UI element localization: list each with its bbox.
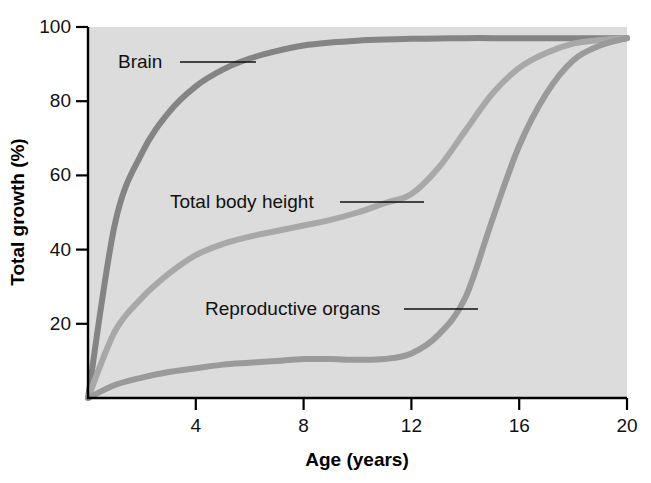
series-label-brain: Brain (118, 51, 162, 72)
x-tick-label-12: 12 (401, 415, 422, 436)
series-label-reproductive-organs: Reproductive organs (205, 298, 380, 319)
y-axis-title: Total growth (%) (7, 138, 28, 285)
x-axis-ticks (196, 398, 627, 410)
x-tick-label-8: 8 (298, 415, 309, 436)
x-tick-label-16: 16 (509, 415, 530, 436)
x-tick-label-20: 20 (616, 415, 637, 436)
y-tick-label-40: 40 (50, 239, 71, 260)
x-axis-title: Age (years) (305, 449, 409, 470)
chart-canvas: 20406080100 48121620 BrainTotal body hei… (0, 0, 651, 483)
y-axis-tick-labels: 20406080100 (39, 16, 71, 334)
x-tick-label-4: 4 (191, 415, 202, 436)
y-tick-label-20: 20 (50, 313, 71, 334)
growth-curves-figure: 20406080100 48121620 BrainTotal body hei… (0, 0, 651, 483)
series-label-total-body-height: Total body height (170, 191, 314, 212)
y-tick-label-80: 80 (50, 90, 71, 111)
y-tick-label-100: 100 (39, 16, 71, 37)
y-axis-ticks (76, 27, 88, 324)
y-tick-label-60: 60 (50, 164, 71, 185)
x-axis-tick-labels: 48121620 (191, 415, 638, 436)
